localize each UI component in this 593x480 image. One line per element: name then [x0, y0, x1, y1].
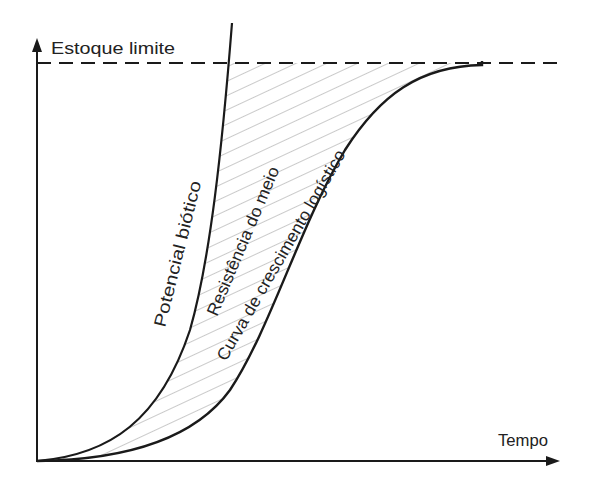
- x-axis-label: Tempo: [498, 431, 548, 450]
- y-axis-label: Estoque limite: [51, 39, 175, 58]
- y-axis-arrow-icon: [32, 38, 42, 52]
- x-axis-arrow-icon: [546, 456, 560, 466]
- environmental-resistance-area: [37, 23, 482, 461]
- population-growth-diagram: Estoque limite Tempo Potencial biótico R…: [0, 0, 593, 480]
